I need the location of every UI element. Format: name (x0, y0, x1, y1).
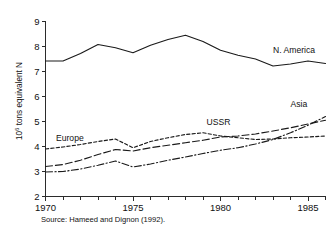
source-caption: Source: Hameed and Dignon (1992). (41, 215, 165, 224)
series-label-ussr: USSR (207, 117, 231, 127)
data-series (46, 35, 326, 172)
series-line-asia (46, 117, 326, 173)
x-tick-labels: 1970197519801985 (35, 202, 319, 213)
y-axis-title-rest: tons equivalent N (15, 62, 24, 128)
x-tick-label: 1975 (122, 202, 143, 213)
x-tick-label: 1980 (210, 202, 231, 213)
y-tick-label: 7 (34, 66, 39, 77)
series-labels: N. AmericaEuropeUSSRAsia (56, 45, 315, 143)
line-chart: 106 tons equivalent N 23456789 197019751… (0, 0, 333, 239)
y-tick-label: 4 (34, 141, 39, 152)
y-tick-label: 2 (34, 191, 39, 202)
series-line-ussr (46, 120, 326, 166)
series-label-asia: Asia (291, 99, 308, 109)
y-axis-title-base: 10 (15, 130, 24, 140)
svg-text:106 tons equivalent N: 106 tons equivalent N (14, 62, 24, 140)
y-tick-label: 3 (34, 166, 39, 177)
x-tick-label: 1970 (35, 202, 56, 213)
series-label-europe: Europe (56, 133, 84, 143)
chart-figure: 106 tons equivalent N 23456789 197019751… (0, 0, 333, 239)
x-tick-label: 1985 (297, 202, 318, 213)
y-tick-label: 9 (34, 16, 39, 27)
series-label-n-america: N. America (273, 45, 315, 55)
y-tick-label: 6 (34, 91, 39, 102)
y-tick-label: 8 (34, 41, 39, 52)
y-tick-label: 5 (34, 116, 39, 127)
y-tick-labels: 23456789 (34, 16, 39, 202)
y-axis-title: 106 tons equivalent N (14, 62, 24, 140)
